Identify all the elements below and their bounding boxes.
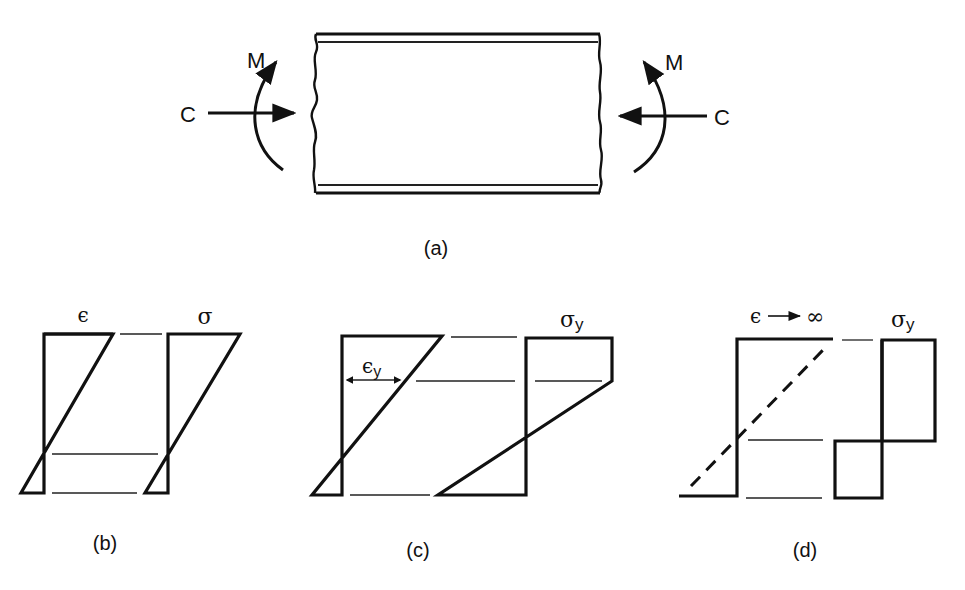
left-break-line	[312, 34, 318, 193]
right-moment-label: M	[665, 50, 683, 75]
strain-label: ϵ	[750, 304, 761, 328]
yield-stress-label: σy	[891, 307, 915, 334]
left-moment-arrow-icon	[255, 62, 283, 170]
right-force-label: C	[714, 105, 730, 130]
beam-segment	[312, 34, 602, 193]
yield-stress-label: σy	[560, 307, 584, 334]
strain-distribution	[21, 334, 113, 493]
beam-plastic-bending-diagram: M C M C (a) ϵ σ (b) ϵy	[0, 0, 965, 590]
yield-strain-label: ϵy	[362, 354, 381, 380]
caption-c: (c)	[406, 539, 429, 561]
panel-d: ϵ ∞ σy (d)	[679, 304, 935, 561]
stress-distribution	[145, 334, 240, 493]
partial-plastic-stress-distribution	[438, 338, 612, 495]
caption-b: (b)	[93, 532, 117, 554]
left-moment-label: M	[247, 48, 265, 73]
caption-a: (a)	[424, 237, 448, 259]
caption-d: (d)	[793, 539, 817, 561]
fully-plastic-stress-distribution	[835, 340, 935, 498]
left-force-label: C	[180, 102, 196, 127]
stress-label: σ	[197, 304, 212, 329]
panel-c: ϵy σy (c)	[312, 307, 612, 561]
linear-strain-dashed-line	[691, 350, 823, 486]
yield-strain-distribution	[312, 336, 442, 495]
right-break-line	[599, 34, 602, 193]
strain-label: ϵ	[77, 303, 88, 327]
panel-b: ϵ σ (b)	[21, 303, 240, 554]
panel-a: M C M C (a)	[180, 34, 730, 259]
infinity-label: ∞	[806, 304, 824, 329]
